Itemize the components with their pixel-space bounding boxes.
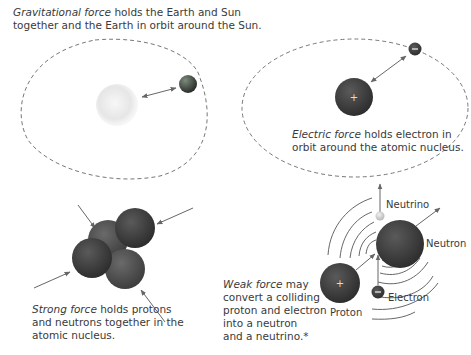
electric-term: Electric force bbox=[292, 128, 361, 140]
weak-line3: proton and electron bbox=[223, 304, 327, 317]
electric-panel: + bbox=[242, 39, 468, 177]
electric-caption: Electric force holds electron in orbit a… bbox=[292, 128, 464, 154]
strong-line1: holds protons bbox=[97, 303, 172, 315]
weak-line2: convert a colliding bbox=[223, 291, 327, 304]
nucleus-plus-sign: + bbox=[350, 92, 358, 103]
weak-term: Weak force bbox=[223, 278, 282, 290]
gravitational-line1: holds the Earth and Sun bbox=[111, 6, 241, 18]
strong-arrow-right bbox=[157, 208, 193, 224]
electric-line2: orbit around the atomic nucleus. bbox=[292, 141, 464, 154]
gravitational-term: Gravitational force bbox=[13, 6, 111, 18]
nucleon-top-right bbox=[115, 208, 155, 248]
neutron-icon bbox=[376, 220, 424, 268]
four-forces-diagram: + bbox=[0, 0, 471, 355]
weak-line1: may bbox=[282, 278, 308, 290]
strong-arrow-left bbox=[34, 272, 70, 288]
electron-label: Electron bbox=[388, 292, 429, 303]
proton-label: Proton bbox=[330, 307, 362, 318]
sun-icon bbox=[96, 84, 138, 126]
earth-icon bbox=[179, 75, 197, 93]
weak-line5: and a neutrino.* bbox=[223, 330, 327, 343]
neutron-label: Neutron bbox=[426, 238, 466, 249]
nucleon-left bbox=[72, 238, 112, 278]
electric-arrow bbox=[371, 56, 406, 82]
electron-minus-sign bbox=[412, 48, 418, 49]
weak-caption: Weak force may convert a colliding proto… bbox=[223, 278, 327, 343]
electric-line1: holds electron in bbox=[361, 128, 452, 140]
strong-caption: Strong force holds protons and neutrons … bbox=[32, 303, 184, 342]
neutrino-label: Neutrino bbox=[386, 199, 429, 210]
neutron-arrow bbox=[416, 208, 440, 226]
gravitational-caption: Gravitational force holds the Earth and … bbox=[13, 6, 262, 32]
neutrino-icon bbox=[376, 212, 385, 221]
strong-line3: atomic nucleus. bbox=[32, 329, 184, 342]
gravity-arrow bbox=[142, 88, 176, 97]
strong-line2: and neutrons together in the bbox=[32, 316, 184, 329]
gravitational-panel bbox=[21, 39, 207, 179]
proton-arrow bbox=[356, 254, 375, 270]
gravitational-line2: together and the Earth in orbit around t… bbox=[13, 19, 262, 32]
strong-arrow-top bbox=[78, 205, 95, 228]
strong-term: Strong force bbox=[32, 303, 97, 315]
weak-line4: into a neutron bbox=[223, 317, 327, 330]
proton-plus-sign: + bbox=[336, 278, 344, 289]
weak-electron-minus-sign bbox=[375, 291, 381, 292]
